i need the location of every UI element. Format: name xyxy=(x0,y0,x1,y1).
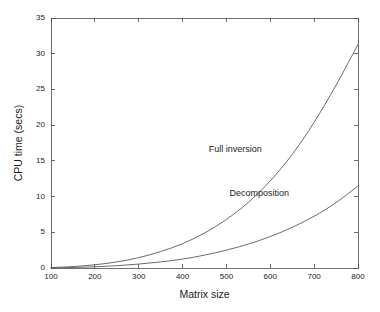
x-axis-ticks xyxy=(51,18,358,268)
x-tick-label: 800 xyxy=(351,273,364,281)
x-tick-label: 300 xyxy=(132,273,145,281)
y-axis-ticks xyxy=(51,18,358,268)
series-label-2: Decomposition xyxy=(230,188,290,198)
y-tick-label: 30 xyxy=(0,50,45,58)
y-tick-label: 35 xyxy=(0,14,45,22)
y-tick-label: 10 xyxy=(0,193,45,201)
y-tick-label: 0 xyxy=(0,264,45,272)
chart-figure: 100200300400500600700800 05101520253035 … xyxy=(0,0,380,312)
x-tick-label: 400 xyxy=(176,273,189,281)
x-axis-title: Matrix size xyxy=(179,288,229,300)
axes-frame xyxy=(51,18,358,268)
plot-box xyxy=(51,18,358,268)
x-tick-label: 100 xyxy=(44,273,57,281)
series-line-1 xyxy=(51,44,358,267)
data-series-lines xyxy=(51,44,358,267)
plot-canvas xyxy=(0,0,380,312)
x-tick-label: 200 xyxy=(88,273,101,281)
y-axis-title: CPU time (secs) xyxy=(12,105,24,181)
y-tick-label: 25 xyxy=(0,85,45,93)
x-tick-label: 500 xyxy=(220,273,233,281)
x-tick-label: 600 xyxy=(264,273,277,281)
x-tick-label: 700 xyxy=(307,273,320,281)
series-line-2 xyxy=(51,186,358,268)
y-tick-label: 5 xyxy=(0,228,45,236)
series-label-1: Full inversion xyxy=(209,144,262,154)
